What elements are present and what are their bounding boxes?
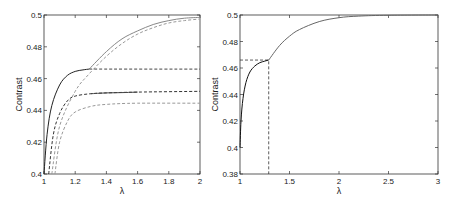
- series-line: [91, 92, 138, 94]
- figure: 11.21.41.61.820.40.420.440.460.480.5λCon…: [0, 0, 455, 200]
- y-tick-label: 0.44: [26, 106, 42, 115]
- y-tick-label: 0.4: [31, 170, 43, 179]
- x-tick-label: 3: [436, 177, 441, 186]
- y-axis-label: Contrast: [210, 77, 220, 112]
- x-tick-label: 2.5: [383, 177, 395, 186]
- y-tick-label: 0.38: [222, 170, 238, 179]
- series-line: [269, 15, 438, 60]
- y-tick-label: 0.5: [227, 11, 239, 20]
- x-axis-label: λ: [337, 186, 342, 196]
- x-tick-label: 2: [337, 177, 342, 186]
- y-tick-label: 0.42: [222, 117, 238, 126]
- y-tick-label: 0.48: [26, 43, 42, 52]
- x-tick-label: 1.4: [101, 177, 113, 186]
- y-tick-label: 0.46: [222, 64, 238, 73]
- x-tick-label: 1.5: [284, 177, 296, 186]
- series-line: [240, 60, 269, 148]
- y-tick-label: 0.44: [222, 91, 238, 100]
- series-line: [89, 17, 200, 69]
- x-tick-label: 1.8: [163, 177, 175, 186]
- series-line: [55, 103, 200, 174]
- guide-line: [240, 60, 269, 174]
- y-tick-label: 0.48: [222, 38, 238, 47]
- y-tick-label: 0.4: [227, 144, 239, 153]
- x-axis-label: λ: [120, 186, 125, 196]
- y-axis-label: Contrast: [14, 77, 24, 112]
- plot-frame: [240, 15, 438, 174]
- x-tick-label: 1: [238, 177, 243, 186]
- y-tick-label: 0.46: [26, 75, 42, 84]
- y-tick-label: 0.42: [26, 138, 42, 147]
- x-tick-label: 1.6: [132, 177, 144, 186]
- left-chart: 11.21.41.61.820.40.420.440.460.480.5λCon…: [14, 11, 203, 196]
- y-tick-label: 0.5: [31, 11, 43, 20]
- series-line: [52, 19, 200, 174]
- x-tick-label: 1: [42, 177, 47, 186]
- x-tick-label: 2: [198, 177, 203, 186]
- x-tick-label: 1.2: [70, 177, 82, 186]
- right-chart: 11.522.530.380.40.420.440.460.480.5λCont…: [210, 11, 441, 196]
